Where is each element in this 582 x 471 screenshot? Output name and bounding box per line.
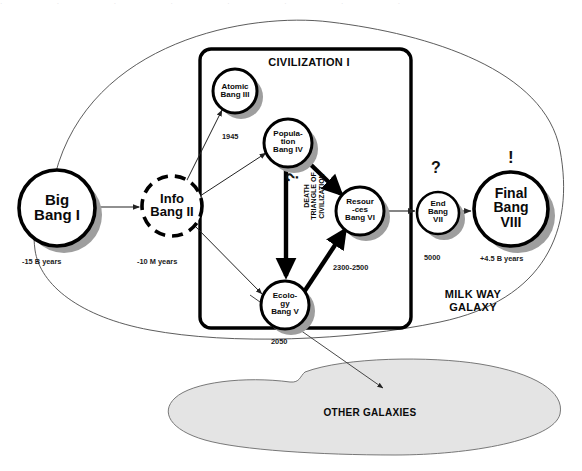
node-info-bang xyxy=(142,176,202,236)
date-label-final-bang: +4.5 B years xyxy=(480,254,523,263)
diagram-canvas: · · · · · · · · xyxy=(0,0,582,471)
date-label-info-bang: -10 M years xyxy=(137,257,177,266)
node-end-bang xyxy=(417,192,459,234)
date-label-resources-bang: 2300-2500 xyxy=(333,263,368,272)
date-label-end-bang: 5000 xyxy=(424,253,440,262)
exclamation-mark-final-bang: ! xyxy=(508,148,514,168)
civilization-box-label: CIVILIZATION I xyxy=(249,56,369,69)
other-galaxies-label: OTHER GALAXIES xyxy=(295,407,445,419)
milky-way-label: MILK WAY GALAXY xyxy=(418,288,528,314)
date-label-ecology-bang: 2050 xyxy=(271,337,287,346)
node-ecology-bang xyxy=(261,281,309,329)
date-label-big-bang: -15 B years xyxy=(22,257,61,266)
diagram-vector-layer xyxy=(0,0,582,471)
date-label-atomic-bang: 1945 xyxy=(222,132,238,141)
edge-info-to-atomic xyxy=(186,110,222,182)
node-final-bang xyxy=(474,172,548,246)
edge-info-to-population xyxy=(197,153,266,198)
death-triangle-label: DEATH TRIANGLE OF CIVILIZATION xyxy=(303,150,325,242)
death-triangle-question-mark: ? xyxy=(284,172,302,182)
edge-info-to-ecology xyxy=(192,223,262,294)
node-big-bang xyxy=(19,170,95,246)
node-resources-bang xyxy=(336,187,384,235)
node-atomic-bang xyxy=(213,69,257,113)
question-mark-end-bang: ? xyxy=(431,159,441,177)
